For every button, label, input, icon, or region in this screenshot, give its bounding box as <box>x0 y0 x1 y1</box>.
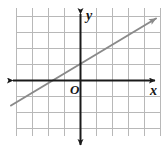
graph-canvas: y x O <box>0 0 168 155</box>
y-axis-label: y <box>84 8 93 23</box>
coordinate-plane-figure: y x O <box>0 0 168 155</box>
figure-background <box>0 0 168 155</box>
x-axis-label: x <box>149 83 157 98</box>
origin-label: O <box>70 82 80 97</box>
